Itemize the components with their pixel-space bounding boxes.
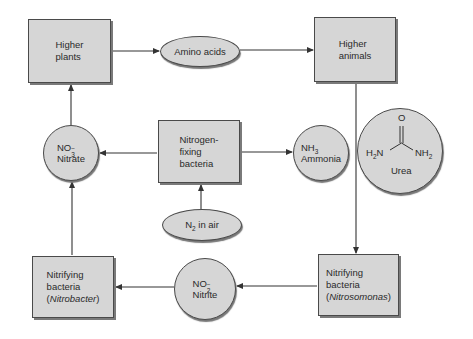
formula-nitrite: NO−2 — [193, 278, 218, 289]
node-higher-animals: Higher animals — [314, 17, 396, 82]
label-line: bacteria — [326, 279, 391, 291]
label-line: Nitrifying — [326, 267, 391, 279]
label-line: Nitrifying — [47, 269, 100, 281]
label: N2 in air — [185, 219, 219, 231]
label: Amino acids — [174, 46, 226, 58]
label-line: Higher — [56, 39, 84, 51]
label-line: fixing — [179, 146, 218, 158]
node-urea: O H2N NH2 Urea — [357, 108, 443, 194]
urea-o: O — [398, 112, 405, 124]
formula-ammonia: NH3 — [301, 142, 341, 153]
node-nitrogen-fixing-bacteria: Nitrogen- fixing bacteria — [158, 120, 240, 183]
node-amino-acids: Amino acids — [160, 36, 240, 67]
node-ammonia: NH3 Ammonia — [293, 125, 349, 181]
formula-nitrate: NO−3 — [57, 142, 85, 153]
node-higher-plants: Higher plants — [28, 19, 111, 83]
label-line: animals — [339, 50, 372, 62]
urea-nh2: NH2 — [415, 147, 432, 159]
node-nitrite: NO−2 Nitrite — [174, 258, 236, 320]
label-line: Higher — [339, 38, 372, 50]
node-nitrifying-bacteria-nitrosomonas: Nitrifying bacteria (Nitrosomonas) — [318, 254, 399, 316]
label: Urea — [391, 165, 412, 177]
label-line: (Nitrosomonas) — [326, 291, 391, 303]
node-nitrifying-bacteria-nitrobacter: Nitrifying bacteria (Nitrobacter) — [32, 256, 114, 318]
label: Nitrite — [193, 289, 218, 300]
label-line: bacteria — [179, 158, 218, 170]
label-line: bacteria — [47, 281, 100, 293]
label-line: Nitrogen- — [179, 134, 218, 146]
label-line: (Nitrobacter) — [47, 293, 100, 305]
label: Ammonia — [301, 153, 341, 164]
node-nitrate: NO−3 Nitrate — [43, 125, 99, 181]
node-n2-in-air: N2 in air — [162, 209, 242, 241]
urea-h2n: H2N — [366, 147, 383, 159]
label-line: plants — [56, 51, 84, 63]
